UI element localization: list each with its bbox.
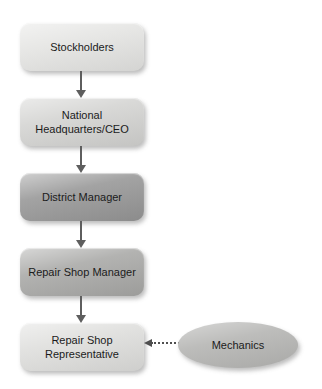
arrow-district-to-shop-manager	[80, 221, 82, 240]
node-repair-shop-representative-label: Repair Shop Representative	[28, 333, 136, 362]
org-chart-diagram: Stockholders National Headquarters/CEO D…	[0, 0, 322, 389]
node-stockholders: Stockholders	[20, 23, 144, 71]
node-mechanics: Mechanics	[178, 322, 298, 368]
node-district-manager-label: District Manager	[42, 190, 122, 204]
arrow-mechanics-to-representative	[144, 339, 180, 349]
node-mechanics-label: Mechanics	[212, 339, 265, 351]
arrow-shop-manager-to-representative	[80, 296, 82, 315]
node-national-headquarters-ceo-label: National Headquarters/CEO	[28, 108, 136, 137]
node-repair-shop-manager: Repair Shop Manager	[20, 248, 144, 296]
node-national-headquarters-ceo: National Headquarters/CEO	[20, 98, 144, 146]
node-stockholders-label: Stockholders	[50, 40, 114, 54]
arrow-stockholders-to-hq	[80, 71, 82, 90]
arrow-hq-to-district-manager	[80, 146, 82, 165]
node-district-manager: District Manager	[20, 173, 144, 221]
dashed-line	[151, 342, 180, 344]
node-repair-shop-manager-label: Repair Shop Manager	[28, 265, 136, 279]
node-repair-shop-representative: Repair Shop Representative	[20, 323, 144, 371]
